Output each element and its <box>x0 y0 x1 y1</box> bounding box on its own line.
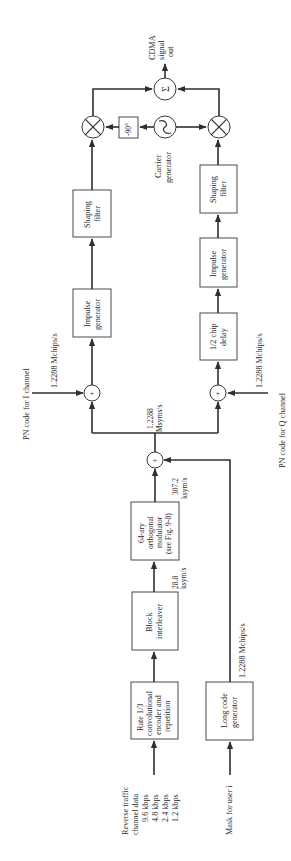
svg-text:(see Fig. 9-8): (see Fig. 9-8) <box>164 513 173 554</box>
svg-text:+: + <box>90 389 94 398</box>
svg-text:Rate 1/3: Rate 1/3 <box>136 703 145 731</box>
pn-code-i-label: PN code for I channel 1.2288 Mchips/s <box>22 333 59 440</box>
svg-text:channel data: channel data <box>131 793 140 835</box>
svg-text:Impulse: Impulse <box>209 250 218 277</box>
svg-text:encoder and: encoder and <box>154 695 163 735</box>
svg-text:Σ: Σ <box>160 86 171 92</box>
svg-text:Msyms/s: Msyms/s <box>155 405 164 432</box>
svg-text:delay: delay <box>219 327 228 346</box>
q-channel-mixer <box>208 116 230 138</box>
i-channel-mixer <box>82 116 104 138</box>
svg-text:modulator: modulator <box>155 516 164 548</box>
svg-text:PN code for Q channel: PN code for Q channel <box>278 392 287 468</box>
cdma-output-label: CDMA signal out <box>148 35 175 60</box>
svg-text:generator: generator <box>93 299 102 330</box>
svg-text:+: + <box>153 456 157 465</box>
svg-text:interleaver: interleaver <box>155 604 164 639</box>
long-code-rate-label: 1.2288 Mchips/s <box>238 623 247 678</box>
pn-code-q-label: PN code for Q channel 1.2288 Mchips/s <box>255 333 287 468</box>
svg-text:1.2288 Mchips/s: 1.2288 Mchips/s <box>50 333 59 388</box>
svg-text:ksym/s: ksym/s <box>180 477 189 499</box>
svg-text:4.8 kbps: 4.8 kbps <box>151 794 160 822</box>
orthogonal-modulator-block: 64-ary orthogonal modulator (see Fig. 9-… <box>131 502 179 560</box>
svg-text:1.2288 Mchips/s: 1.2288 Mchips/s <box>255 333 264 388</box>
svg-text:filter: filter <box>93 206 102 222</box>
svg-text:+: + <box>216 389 220 398</box>
impulse-generator-i-block: Impulse generator <box>73 289 111 337</box>
summation-node: Σ <box>154 78 176 100</box>
convolutional-encoder-block: Rate 1/3 convolutional encoder and repet… <box>131 682 178 739</box>
svg-text:2.4 kbps: 2.4 kbps <box>161 794 170 822</box>
svg-text:ksym/s: ksym/s <box>179 567 188 589</box>
phase-shift-block: -90° <box>119 117 138 138</box>
svg-text:orthogonal: orthogonal <box>146 516 155 549</box>
svg-text:Mask for user i: Mask for user i <box>225 784 234 835</box>
svg-text:Carrier: Carrier <box>154 155 163 178</box>
svg-text:307.2: 307.2 <box>171 478 180 495</box>
svg-text:1.2288: 1.2288 <box>146 408 155 429</box>
center-xor-adder: + <box>147 452 163 468</box>
svg-text:Shaping: Shaping <box>83 201 92 228</box>
rate-label-28-8: 28.8 ksym/s <box>171 567 188 589</box>
svg-text:signal: signal <box>157 40 166 60</box>
mask-input-label: Mask for user i <box>225 784 234 835</box>
mixer-q-to-sum-line <box>178 89 219 116</box>
svg-text:generator: generator <box>230 697 239 728</box>
svg-text:1.2 kbps: 1.2 kbps <box>171 794 180 822</box>
mixer-i-to-sum-line <box>93 89 152 116</box>
svg-text:Shaping: Shaping <box>209 176 218 203</box>
i-channel-adder: + <box>84 385 100 401</box>
shaping-filter-i-block: Shaping filter <box>73 190 111 237</box>
svg-text:Reverse traffic: Reverse traffic <box>121 786 130 835</box>
svg-text:repetition: repetition <box>163 701 172 732</box>
svg-text:generator: generator <box>219 249 228 280</box>
svg-text:Block: Block <box>145 612 154 632</box>
cdma-reverse-link-transmitter-diagram: Reverse traffic channel data 9.6 kbps 4.… <box>0 0 291 861</box>
q-channel-adder: + <box>210 385 226 401</box>
svg-text:9.6 kbps: 9.6 kbps <box>141 794 150 822</box>
svg-text:PN code for I channel: PN code for I channel <box>22 367 31 440</box>
svg-text:filter: filter <box>219 181 228 197</box>
rate-label-1-2288-msyms: 1.2288 Msyms/s <box>146 405 164 432</box>
long-code-generator-block: Long code generator <box>206 682 253 740</box>
svg-text:CDMA: CDMA <box>148 35 157 60</box>
block-interleaver-block: Block interleaver <box>132 592 178 650</box>
carrier-generator-label: Carrier generator <box>154 152 173 183</box>
svg-text:out: out <box>166 46 175 57</box>
impulse-generator-q-block: Impulse generator <box>200 238 237 287</box>
svg-text:generator: generator <box>164 152 173 183</box>
svg-text:-90°: -90° <box>124 123 133 136</box>
svg-text:Impulse: Impulse <box>83 300 92 327</box>
rate-label-307-2: 307.2 ksym/s <box>171 477 189 499</box>
half-chip-delay-block: 1/2 chip delay <box>200 313 237 360</box>
svg-text:Long code: Long code <box>220 693 229 728</box>
traffic-input-label: Reverse traffic channel data 9.6 kbps 4.… <box>121 786 180 835</box>
carrier-generator <box>154 116 176 138</box>
svg-text:1/2 chip: 1/2 chip <box>209 323 218 350</box>
svg-text:64-ary: 64-ary <box>137 523 146 543</box>
shaping-filter-q-block: Shaping filter <box>200 165 237 213</box>
svg-text:convolutional: convolutional <box>145 690 154 736</box>
